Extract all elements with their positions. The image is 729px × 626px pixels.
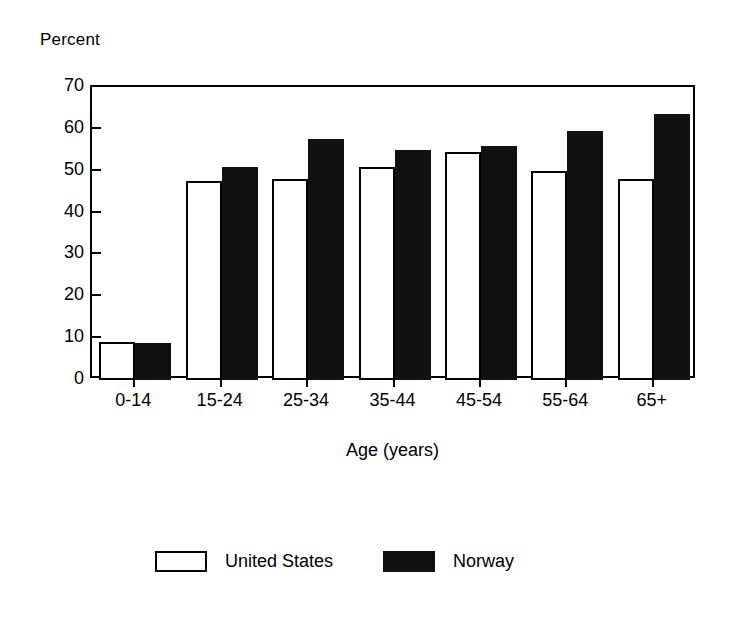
bar: [654, 114, 690, 380]
legend-swatch-norway: [383, 551, 435, 572]
bar: [445, 152, 481, 380]
y-axis-tick-mark: [90, 127, 101, 129]
x-axis-title: Age (years): [90, 440, 695, 461]
legend-label-united-states: United States: [225, 551, 333, 572]
x-axis-tick-label: 0-14: [115, 390, 151, 411]
bar: [222, 167, 258, 380]
x-axis-tick-label: 55-64: [542, 390, 588, 411]
y-axis-tick-label: 40: [38, 202, 84, 220]
y-axis-tick-label: 30: [38, 243, 84, 261]
bar: [99, 342, 135, 380]
y-axis-tick-label: 50: [38, 160, 84, 178]
bar: [531, 171, 567, 380]
x-axis-tick-label: 65+: [637, 390, 668, 411]
bar: [308, 139, 344, 380]
bar: [186, 181, 222, 380]
bar: [567, 131, 603, 380]
x-axis-tick-labels: 0-1415-2425-3435-4445-5455-6465+: [90, 390, 695, 418]
y-axis-tick-mark: [90, 252, 101, 254]
y-axis-tick-labels: 010203040506070: [28, 0, 84, 626]
legend-item-united-states: United States: [155, 548, 333, 574]
x-axis-tick-label: 15-24: [197, 390, 243, 411]
plot-area: [90, 85, 695, 378]
legend-item-norway: Norway: [383, 548, 514, 574]
y-axis-tick-mark: [90, 336, 101, 338]
y-axis-tick-label: 20: [38, 285, 84, 303]
y-axis-tick-label: 60: [38, 118, 84, 136]
bar: [135, 343, 171, 380]
bar: [618, 179, 654, 380]
bar: [359, 167, 395, 380]
y-axis-tick-mark: [90, 294, 101, 296]
y-axis-tick-mark: [90, 211, 101, 213]
y-axis-tick-label: 70: [38, 76, 84, 94]
bars-layer: [92, 87, 697, 380]
x-axis-tick-label: 25-34: [283, 390, 329, 411]
x-axis-tick-label: 35-44: [369, 390, 415, 411]
y-axis-tick-label: 0: [38, 369, 84, 387]
legend-label-norway: Norway: [453, 551, 514, 572]
legend-swatch-united-states: [155, 551, 207, 572]
bar-chart-figure: Percent 010203040506070 0-1415-2425-3435…: [0, 0, 729, 626]
bar: [272, 179, 308, 380]
y-axis-tick-label: 10: [38, 327, 84, 345]
y-axis-tick-mark: [90, 169, 101, 171]
chart-legend: United States Norway: [155, 548, 585, 580]
bar: [395, 150, 431, 380]
bar: [481, 146, 517, 380]
x-axis-tick-label: 45-54: [456, 390, 502, 411]
